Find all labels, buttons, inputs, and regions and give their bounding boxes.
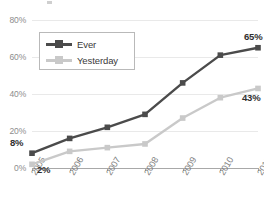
data-label-yesterday-2011: 43% [242, 92, 260, 103]
legend-swatch-yesterday-icon [46, 54, 72, 66]
data-point-ever-2007 [105, 125, 111, 131]
data-point-ever-2008 [142, 112, 148, 118]
data-point-ever-2009 [180, 80, 186, 86]
data-point-yesterday-2005 [29, 162, 35, 168]
data-point-ever-2005 [29, 150, 35, 156]
legend-label-yesterday: Yesterday [77, 55, 118, 66]
data-point-ever-2006 [67, 136, 73, 142]
data-point-ever-2011 [255, 45, 261, 51]
legend-swatch-ever-icon [46, 38, 72, 50]
legend-label-ever: Ever [77, 39, 96, 50]
data-point-yesterday-2011 [255, 86, 261, 92]
chart-legend: Ever Yesterday [39, 32, 135, 70]
data-point-yesterday-2009 [180, 115, 186, 121]
data-point-ever-2010 [218, 52, 224, 58]
legend-entry-ever: Ever [46, 37, 96, 51]
series-line-yesterday [32, 88, 258, 164]
data-label-yesterday-2005: 2% [37, 164, 50, 175]
data-point-yesterday-2010 [218, 95, 224, 101]
data-point-yesterday-2006 [67, 149, 73, 155]
data-label-ever-2005: 8% [10, 137, 23, 148]
legend-entry-yesterday: Yesterday [46, 53, 118, 67]
data-point-yesterday-2008 [142, 141, 148, 147]
data-label-ever-2011: 65% [244, 31, 262, 42]
line-chart: 80%60%40%20%0% 2005200620072008200920102… [0, 0, 264, 209]
data-point-yesterday-2007 [105, 145, 111, 151]
